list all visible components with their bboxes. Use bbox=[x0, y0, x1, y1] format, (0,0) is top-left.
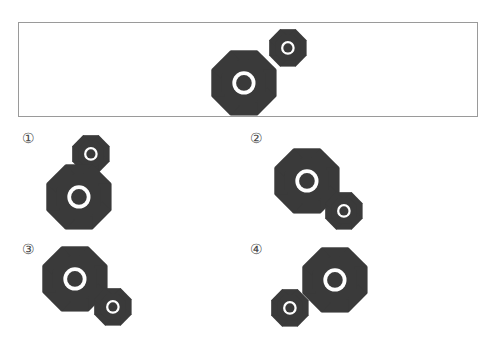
option-3[interactable]: ③ bbox=[22, 243, 252, 354]
option-2[interactable]: ② bbox=[250, 132, 480, 244]
question-gear-assembly bbox=[19, 23, 479, 118]
option-4-gear-assembly bbox=[250, 243, 480, 354]
option-1-gear-assembly bbox=[22, 132, 252, 244]
large-gear bbox=[301, 246, 369, 314]
small-gear bbox=[268, 28, 308, 68]
option-2-gear-assembly bbox=[250, 132, 480, 244]
large-gear bbox=[45, 163, 113, 231]
option-1[interactable]: ① bbox=[22, 132, 252, 244]
option-3-gear-assembly bbox=[22, 243, 252, 354]
question-panel bbox=[18, 22, 478, 117]
option-4[interactable]: ④ bbox=[250, 243, 480, 354]
small-gear bbox=[324, 191, 364, 231]
small-gear bbox=[93, 287, 133, 327]
